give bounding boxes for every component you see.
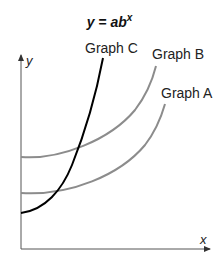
label-graph-b: Graph B <box>152 46 204 62</box>
label-graph-a: Graph A <box>161 85 212 101</box>
x-axis-label: x <box>200 232 207 247</box>
label-graph-c: Graph C <box>85 40 138 56</box>
curve-graph-a <box>21 104 165 193</box>
y-axis-label: y <box>26 53 33 68</box>
curve-graph-b <box>21 66 156 157</box>
